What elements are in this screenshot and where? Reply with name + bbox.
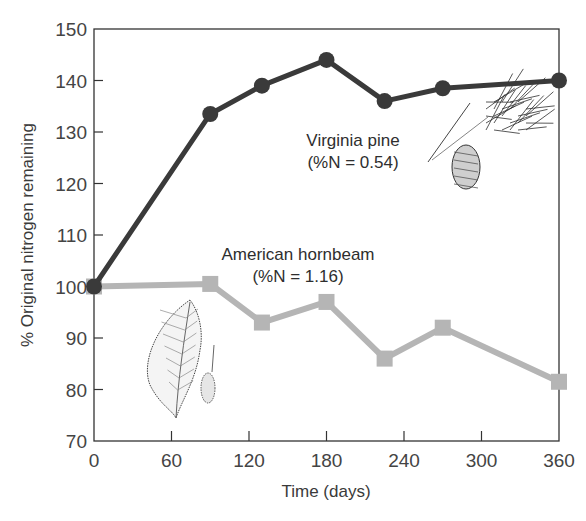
data-point-circle: [86, 279, 102, 295]
data-point-circle: [202, 106, 218, 122]
pine-annotation-n: (%N = 0.54): [307, 153, 398, 172]
hornbeam-leaf-icon: [147, 300, 201, 418]
data-point-square: [319, 294, 335, 310]
data-point-square: [254, 315, 270, 331]
y-tick-label: 90: [66, 328, 87, 349]
x-tick-label: 360: [543, 450, 575, 471]
y-tick-label: 80: [66, 380, 87, 401]
y-tick-label: 130: [55, 122, 87, 143]
x-tick-label: 240: [388, 450, 420, 471]
line-chart: 7080901001101201301401500601201802403003…: [0, 0, 586, 521]
x-tick-label: 60: [161, 450, 182, 471]
y-tick-label: 100: [55, 277, 87, 298]
pine-cone-icon: [452, 145, 480, 189]
y-axis-title: % Original nitrogen remaining: [18, 123, 37, 347]
data-point-square: [202, 276, 218, 292]
y-tick-label: 70: [66, 431, 87, 452]
hornbeam-fruit-icon: [201, 373, 215, 403]
hornbeam-annotation-name: American hornbeam: [221, 245, 374, 264]
x-axis-title: Time (days): [281, 482, 370, 501]
data-point-circle: [319, 52, 335, 68]
hornbeam-annotation-n: (%N = 1.16): [252, 267, 343, 286]
y-tick-label: 150: [55, 19, 87, 40]
y-tick-label: 120: [55, 174, 87, 195]
data-point-circle: [377, 93, 393, 109]
data-point-square: [377, 351, 393, 367]
data-point-circle: [254, 78, 270, 94]
data-point-square: [551, 374, 567, 390]
y-tick-label: 110: [57, 225, 87, 246]
x-tick-label: 0: [89, 450, 100, 471]
data-point-circle: [551, 73, 567, 89]
x-tick-label: 180: [311, 450, 343, 471]
pine-annotation-name: Virginia pine: [306, 131, 399, 150]
data-point-circle: [435, 80, 451, 96]
y-tick-label: 140: [55, 71, 87, 92]
x-tick-label: 300: [466, 450, 498, 471]
data-point-square: [435, 320, 451, 336]
x-tick-label: 120: [233, 450, 265, 471]
